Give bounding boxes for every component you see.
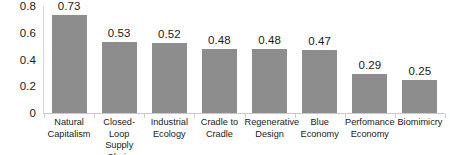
plot-area: 0.730.530.520.480.480.470.290.25 [44, 6, 445, 113]
x-axis-tick-mark [194, 114, 195, 118]
bar-value-label: 0.47 [294, 35, 345, 47]
bar-group: 0.25 [402, 6, 437, 113]
x-axis-category-label: Industrial Ecology [144, 117, 194, 140]
bar-group: 0.73 [52, 6, 87, 113]
x-axis-tick-mark [395, 114, 396, 118]
x-axis-category-label: Blue Economy [295, 117, 345, 140]
bar-group: 0.47 [302, 6, 337, 113]
bar-group: 0.48 [202, 6, 237, 113]
bar-value-label: 0.53 [94, 27, 145, 39]
bar-value-label: 0.48 [194, 34, 245, 46]
bar-value-label: 0.29 [344, 59, 395, 71]
bar [52, 15, 87, 113]
y-axis-tick-label: 0 [0, 107, 36, 119]
x-axis-category-label: Regenerative Design [245, 117, 295, 140]
bar-chart: 00.20.40.60.8 0.730.530.520.480.480.470.… [0, 0, 450, 155]
bar-value-label: 0.48 [244, 34, 295, 46]
bar-group: 0.29 [352, 6, 387, 113]
bar-value-label: 0.52 [144, 28, 195, 40]
y-axis-tick-label: 0.2 [0, 80, 36, 92]
x-axis-category-label: Closed-Loop Supply Chain [94, 117, 144, 155]
bar-value-label: 0.73 [44, 0, 95, 12]
bar-group: 0.53 [102, 6, 137, 113]
bar [252, 49, 287, 113]
x-axis-tick-mark [245, 114, 246, 118]
bar-group: 0.52 [152, 6, 187, 113]
x-axis-tick-mark [144, 114, 145, 118]
bar-value-label: 0.25 [394, 65, 445, 77]
x-axis-category-label: Biomimicry [395, 117, 445, 129]
x-axis-category-label: Perfomance Economy [345, 117, 395, 140]
x-axis-tick-mark [44, 114, 45, 118]
y-axis-tick-label: 0.4 [0, 54, 36, 66]
y-axis-tick-label: 0.6 [0, 27, 36, 39]
x-axis-category-label: Cradle to Cradle [194, 117, 244, 140]
x-axis-category-label: Natural Capitalism [44, 117, 94, 140]
bar-group: 0.48 [252, 6, 287, 113]
bar [202, 49, 237, 113]
y-axis: 00.20.40.60.8 [0, 0, 36, 120]
bar [352, 74, 387, 113]
x-axis-tick-mark [94, 114, 95, 118]
bar [102, 42, 137, 113]
bar [302, 50, 337, 113]
bar [402, 80, 437, 113]
x-axis-tick-mark [345, 114, 346, 118]
x-axis-tick-mark [445, 114, 446, 118]
y-axis-tick-label: 0.8 [0, 0, 36, 12]
bar [152, 43, 187, 113]
x-axis-category-labels: Natural CapitalismClosed-Loop Supply Cha… [44, 117, 445, 155]
x-axis-tick-mark [295, 114, 296, 118]
